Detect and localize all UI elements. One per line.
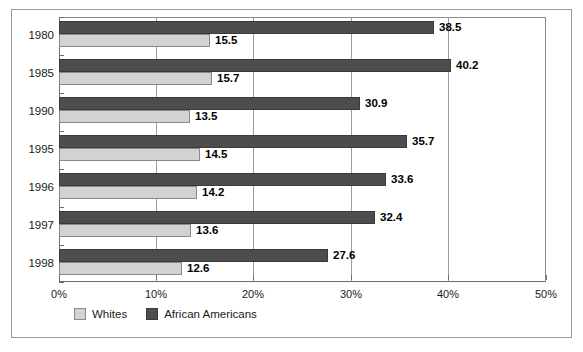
bar-1990-african-americans[interactable] — [59, 97, 360, 110]
bar-value-1985-african-americans: 40.2 — [456, 59, 478, 72]
bar-value-1996-african-americans: 33.6 — [391, 173, 413, 186]
bar-1980-whites[interactable] — [59, 34, 210, 47]
bar-1996-whites[interactable] — [59, 186, 197, 199]
bar-1995-whites[interactable] — [59, 148, 200, 161]
chart-legend: Whites African Americans — [74, 308, 267, 320]
legend-swatch-whites-icon — [74, 308, 86, 320]
legend-swatch-african-americans-icon — [146, 308, 158, 320]
legend-label-whites: Whites — [92, 308, 127, 320]
bar-1997-african-americans[interactable] — [59, 211, 375, 224]
bar-1985-african-americans[interactable] — [59, 59, 451, 72]
bar-value-1995-african-americans: 35.7 — [412, 135, 434, 148]
bar-value-1997-african-americans: 32.4 — [380, 211, 402, 224]
bar-value-1997-whites: 13.6 — [196, 224, 218, 237]
bar-1985-whites[interactable] — [59, 72, 212, 85]
bar-1980-african-americans[interactable] — [59, 21, 434, 34]
bars-layer: 38.515.540.215.730.913.535.714.533.614.2… — [12, 10, 573, 339]
bar-1995-african-americans[interactable] — [59, 135, 407, 148]
bar-1998-whites[interactable] — [59, 262, 182, 275]
bar-value-1995-whites: 14.5 — [205, 148, 227, 161]
bar-1997-whites[interactable] — [59, 224, 191, 237]
legend-label-african-americans: African Americans — [164, 308, 257, 320]
bar-value-1998-african-americans: 27.6 — [333, 249, 355, 262]
chart-figure-frame: 0% 10% 20% 30% 40% 50% 1980 1985 1990 19… — [11, 9, 572, 338]
bar-value-1990-whites: 13.5 — [195, 110, 217, 123]
legend-entry-african-americans[interactable]: African Americans — [146, 308, 257, 320]
bar-value-1998-whites: 12.6 — [187, 262, 209, 275]
bar-value-1996-whites: 14.2 — [202, 186, 224, 199]
bar-value-1985-whites: 15.7 — [217, 72, 239, 85]
bar-1990-whites[interactable] — [59, 110, 190, 123]
bar-1998-african-americans[interactable] — [59, 249, 328, 262]
bar-value-1980-african-americans: 38.5 — [439, 21, 461, 34]
bar-chart: 0% 10% 20% 30% 40% 50% 1980 1985 1990 19… — [12, 10, 573, 339]
bar-value-1990-african-americans: 30.9 — [365, 97, 387, 110]
bar-value-1980-whites: 15.5 — [215, 34, 237, 47]
legend-entry-whites[interactable]: Whites — [74, 308, 127, 320]
bar-1996-african-americans[interactable] — [59, 173, 386, 186]
